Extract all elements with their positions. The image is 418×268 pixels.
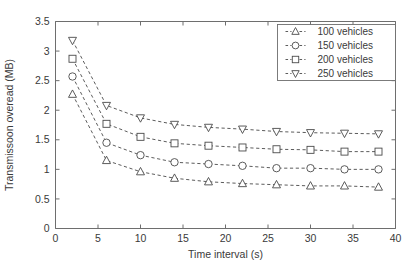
data-point-marker-triangle-up [307,182,315,189]
y-tick-label: 2.5 [35,74,50,86]
chart-legend: 100 vehicles150 vehicles200 vehicles250 … [278,25,396,81]
data-point-marker-triangle-up [103,156,111,163]
data-point-marker-square [137,133,144,140]
data-point-marker-triangle-up [341,182,349,189]
data-point-marker-square [103,120,110,127]
data-point-marker-square [69,55,76,62]
x-axis-title: Time interval (s) [188,248,263,260]
data-point-marker-square [273,146,280,153]
x-tick-label: 25 [262,232,274,244]
data-point-marker-circle [103,139,110,146]
data-point-marker-triangle-up [273,180,281,187]
data-point-marker-circle [239,162,246,169]
data-point-marker-circle [205,160,212,167]
x-tick-label: 10 [135,232,147,244]
x-tick-label: 35 [347,232,359,244]
y-axis-title: Transmissoon overead (MB) [3,59,15,191]
data-point-marker-circle [341,166,348,173]
data-point-marker-square [205,142,212,149]
data-point-marker-triangle-down [341,130,349,137]
data-point-marker-circle [375,166,382,173]
data-point-marker-triangle-up [239,179,247,186]
data-point-marker-square [341,148,348,155]
series-line [73,77,379,170]
data-point-marker-circle [171,159,178,166]
data-point-marker-circle [137,151,144,158]
series-100-vehicles [69,90,383,190]
x-tick-label: 40 [390,232,402,244]
data-point-marker-triangle-down [69,37,77,44]
data-point-marker-square [307,146,314,153]
data-point-marker-triangle-down [375,131,383,138]
data-point-marker-triangle-up [375,183,383,190]
data-point-marker-triangle-up [69,90,77,97]
legend-label: 100 vehicles [318,26,374,37]
data-point-marker-circle [273,164,280,171]
data-point-marker-triangle-down [205,124,213,131]
y-tick-label: 1.5 [35,133,50,145]
data-point-marker-triangle-down [307,130,315,137]
legend-label: 250 vehicles [318,68,374,79]
y-tick-label: 0.5 [35,193,50,205]
axis-title-group: Time interval (s)Transmissoon overead (M… [3,59,263,260]
y-tick-label: 1 [44,163,50,175]
data-point-marker-circle [292,42,299,49]
data-point-marker-square [171,140,178,147]
legend-label: 200 vehicles [318,54,374,65]
y-tick-label: 3 [44,45,50,57]
data-point-marker-square [375,148,382,155]
data-point-marker-circle [307,164,314,171]
legend-label: 150 vehicles [318,40,374,51]
data-point-marker-circle [69,73,76,80]
series-line [73,94,379,187]
data-point-marker-square [239,144,246,151]
chart-figure: 0510152025303540 00.511.522.533.5 Time i… [0,0,418,268]
data-point-marker-triangle-down [273,128,281,135]
data-point-marker-square [292,56,298,62]
x-tick-label: 30 [305,232,317,244]
y-tick-label: 0 [44,222,50,234]
x-tick-label: 15 [177,232,189,244]
x-tick-label: 20 [220,232,232,244]
y-tick-label: 3.5 [35,15,50,27]
x-tick-label: 5 [95,232,101,244]
x-tick-label: 0 [53,232,59,244]
chart-canvas: 0510152025303540 00.511.522.533.5 Time i… [0,0,418,268]
y-tick-label: 2 [44,104,50,116]
series-150-vehicles [69,73,382,173]
